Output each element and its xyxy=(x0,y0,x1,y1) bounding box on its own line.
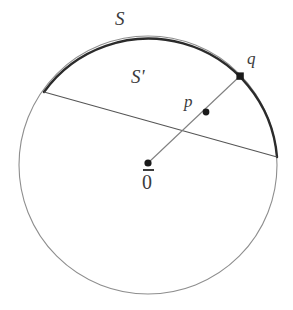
diagram-canvas xyxy=(0,0,293,310)
ray-origin-to-q xyxy=(148,76,240,163)
label-chord-S-prime: S' xyxy=(131,67,145,86)
label-point-q: q xyxy=(247,50,256,67)
chord-S-prime xyxy=(44,92,277,157)
label-origin: 0 xyxy=(142,169,154,192)
circle-diagram-figure: S S' q p 0 xyxy=(0,0,293,310)
origin-zero-glyph: 0 xyxy=(142,172,154,192)
point-p xyxy=(203,109,210,116)
point-origin xyxy=(144,159,151,166)
label-point-p: p xyxy=(184,93,193,110)
label-arc-S: S xyxy=(115,9,125,28)
point-q xyxy=(236,72,243,79)
